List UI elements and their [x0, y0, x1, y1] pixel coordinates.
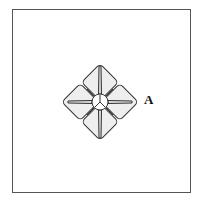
figure-label: A — [144, 92, 153, 108]
diamond-diagram — [0, 0, 203, 202]
arm-down — [99, 110, 102, 138]
arm-up — [99, 66, 102, 94]
arm-left — [68, 101, 92, 104]
arm-right — [108, 101, 132, 104]
